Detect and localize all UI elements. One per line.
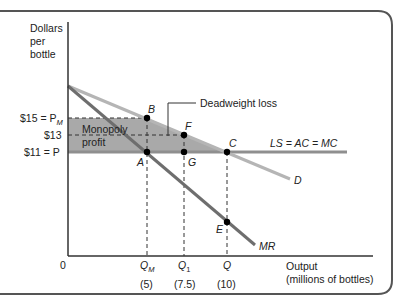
y-tick-11: $11 = P	[24, 146, 60, 158]
label-d: D	[294, 174, 302, 186]
monopoly-profit-label-2: profit	[82, 136, 105, 148]
point-e	[224, 219, 230, 225]
origin-label: 0	[60, 259, 66, 271]
x-axis-label-2: (millions of bottles)	[286, 273, 374, 285]
y-axis-label-2: per	[30, 35, 46, 47]
point-a	[144, 149, 150, 155]
point-f	[181, 132, 187, 138]
point-b	[144, 115, 150, 121]
label-g: G	[188, 156, 196, 168]
point-c	[224, 149, 230, 155]
label-f: F	[185, 120, 192, 132]
label-c: C	[229, 137, 237, 149]
x-tick-q: Q	[223, 259, 231, 271]
label-b: B	[148, 103, 155, 115]
y-axis-label-3: bottle	[30, 48, 56, 60]
label-e: E	[216, 223, 224, 235]
x-axis-label-1: Output	[286, 260, 318, 272]
y-tick-15: $15 = PM	[20, 112, 64, 127]
monopoly-profit-label-1: Monopoly	[82, 123, 128, 135]
x-tick-value-10: (10)	[217, 278, 236, 290]
label-ls-ac-mc: LS = AC = MC	[270, 137, 338, 149]
deadweight-loss-label: Deadweight loss	[200, 97, 277, 109]
y-axis-label-1: Dollars	[30, 22, 63, 34]
chart: Dollars per bottle $15 = PM $13 $11 = P …	[0, 0, 394, 301]
x-tick-qm: QM	[140, 259, 155, 274]
label-a: A	[136, 156, 144, 168]
label-mr: MR	[259, 240, 276, 252]
x-tick-q1: Q1	[178, 259, 190, 274]
x-tick-value-7-5: (7.5)	[174, 278, 196, 290]
point-g	[181, 149, 187, 155]
x-tick-value-5: (5)	[140, 278, 153, 290]
y-tick-13: $13	[44, 129, 62, 141]
